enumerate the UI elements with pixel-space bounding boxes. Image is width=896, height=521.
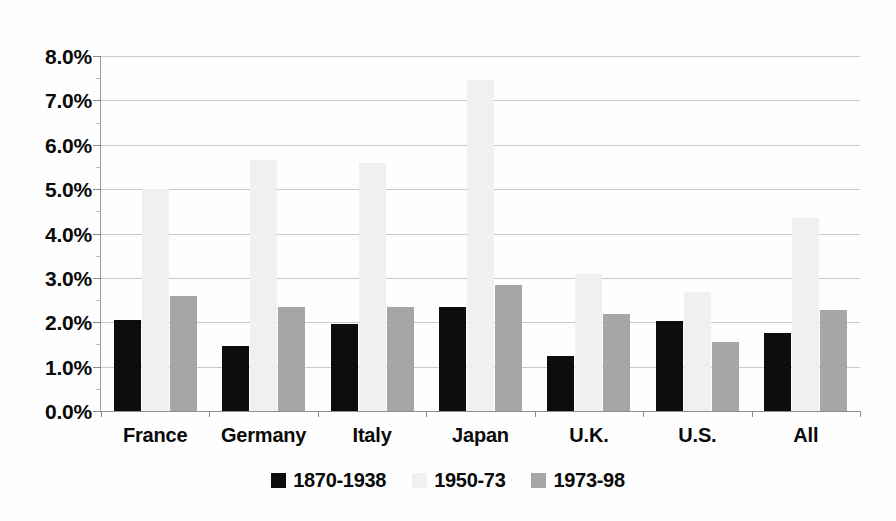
bar: [764, 333, 791, 411]
x-axis-tick: [426, 411, 427, 417]
y-axis-label-group: 0.0%1.0%2.0%3.0%4.0%5.0%6.0%7.0%8.0%: [0, 0, 92, 521]
y-axis-tick: [93, 411, 101, 412]
bar: [331, 324, 358, 411]
bar: [467, 80, 494, 411]
bar-group-u-k: [547, 56, 630, 411]
x-axis-tick-label: France: [101, 424, 209, 446]
x-axis-tick-label: Italy: [318, 424, 426, 446]
y-axis-tick-label: 8.0%: [6, 46, 92, 67]
legend-swatch-icon: [531, 473, 546, 488]
x-axis-tick: [860, 411, 861, 417]
x-axis-tick: [752, 411, 753, 417]
x-axis-tick: [101, 411, 102, 417]
bar: [656, 321, 683, 411]
legend-label: 1973-98: [553, 470, 624, 490]
bar: [820, 310, 847, 411]
legend-label: 1870-1938: [293, 470, 386, 490]
x-axis-label-group: FranceGermanyItalyJapanU.K.U.S.All: [101, 424, 860, 458]
bar-group-france: [114, 56, 197, 411]
y-axis-tick-label: 0.0%: [6, 401, 92, 422]
bar: [250, 160, 277, 411]
bar: [142, 189, 169, 411]
bar: [792, 218, 819, 411]
x-axis-tick: [535, 411, 536, 417]
legend-swatch-icon: [412, 473, 427, 488]
plot-area: [101, 56, 860, 411]
y-axis-tick: [93, 189, 101, 190]
x-axis-tick-label: Japan: [426, 424, 534, 446]
y-axis-tick-label: 5.0%: [6, 179, 92, 200]
bar: [712, 342, 739, 411]
bar: [359, 163, 386, 412]
y-axis-minor-tick: [96, 211, 101, 212]
y-axis-tick: [93, 322, 101, 323]
y-axis-tick: [93, 145, 101, 146]
y-axis-tick-label: 4.0%: [6, 223, 92, 244]
x-axis-tick-label: U.K.: [535, 424, 643, 446]
y-axis-minor-tick: [96, 256, 101, 257]
chart-legend: 1870-19381950-731973-98: [0, 470, 896, 490]
bar-group-italy: [331, 56, 414, 411]
y-axis-tick: [93, 234, 101, 235]
bar-group-u-s: [656, 56, 739, 411]
y-axis-tick-label: 7.0%: [6, 90, 92, 111]
bar: [278, 307, 305, 411]
bar-chart: 0.0%1.0%2.0%3.0%4.0%5.0%6.0%7.0%8.0% Fra…: [0, 0, 896, 521]
y-axis-minor-tick: [96, 300, 101, 301]
bar: [439, 307, 466, 411]
x-axis-tick-label: All: [752, 424, 860, 446]
bar-group-germany: [222, 56, 305, 411]
y-axis-tick: [93, 100, 101, 101]
legend-label: 1950-73: [434, 470, 505, 490]
legend-swatch-icon: [271, 473, 286, 488]
bar-group-japan: [439, 56, 522, 411]
y-axis-tick-label: 1.0%: [6, 356, 92, 377]
legend-item[interactable]: 1950-73: [412, 470, 505, 490]
x-axis-tick: [643, 411, 644, 417]
y-axis-minor-tick: [96, 389, 101, 390]
gridline: [101, 411, 860, 412]
bar: [603, 314, 630, 411]
bar-group-all: [764, 56, 847, 411]
y-axis-tick-label: 2.0%: [6, 312, 92, 333]
bar: [495, 285, 522, 411]
y-axis-tick: [93, 56, 101, 57]
y-axis-tick: [93, 278, 101, 279]
y-axis-tick: [93, 367, 101, 368]
bar: [575, 274, 602, 411]
y-axis-minor-tick: [96, 167, 101, 168]
x-axis-tick: [318, 411, 319, 417]
legend-item[interactable]: 1870-1938: [271, 470, 386, 490]
bar: [684, 292, 711, 411]
y-axis-minor-tick: [96, 78, 101, 79]
x-axis-tick-label: Germany: [209, 424, 317, 446]
y-axis-minor-tick: [96, 123, 101, 124]
bar: [547, 356, 574, 411]
bar: [222, 346, 249, 411]
bar: [114, 320, 141, 411]
legend-item[interactable]: 1973-98: [531, 470, 624, 490]
y-axis-tick-label: 6.0%: [6, 134, 92, 155]
y-axis-tick-label: 3.0%: [6, 267, 92, 288]
y-axis-minor-tick: [96, 344, 101, 345]
x-axis-tick: [209, 411, 210, 417]
bar: [170, 296, 197, 411]
x-axis-tick-label: U.S.: [643, 424, 751, 446]
bar: [387, 307, 414, 411]
